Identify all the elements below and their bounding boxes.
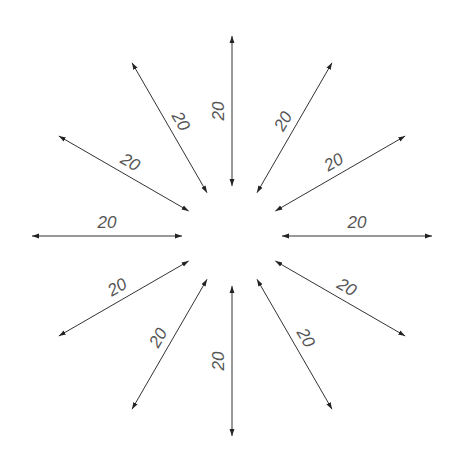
double-headed-arrow-line — [275, 136, 405, 211]
double-headed-arrow-line — [59, 136, 189, 211]
double-headed-arrow-line — [59, 261, 189, 336]
dimension-arrow: 20 — [132, 279, 207, 409]
dimension-arrow: 20 — [209, 286, 232, 436]
dimension-arrow: 20 — [209, 36, 232, 186]
double-headed-arrow-line — [257, 63, 332, 193]
double-headed-arrow-line — [275, 261, 405, 336]
dimension-arrow: 20 — [132, 63, 207, 193]
radial-dimension-diagram: 202020202020202020202020 — [0, 0, 450, 461]
dimension-label: 20 — [347, 213, 367, 232]
dimension-arrow: 20 — [59, 261, 189, 336]
dimension-arrow: 20 — [275, 136, 405, 211]
double-headed-arrow-line — [132, 279, 207, 409]
dimension-arrow: 20 — [32, 213, 182, 236]
dimension-label: 20 — [209, 351, 228, 371]
dimension-label: 20 — [97, 213, 117, 232]
arrow-group: 202020202020202020202020 — [32, 36, 432, 436]
dimension-arrow: 20 — [59, 136, 189, 211]
dimension-label: 20 — [209, 101, 228, 121]
dimension-arrow: 20 — [282, 213, 432, 236]
dimension-arrow: 20 — [257, 63, 332, 193]
dimension-arrow: 20 — [275, 261, 405, 336]
double-headed-arrow-line — [257, 279, 332, 409]
double-headed-arrow-line — [132, 63, 207, 193]
dimension-arrow: 20 — [257, 279, 332, 409]
diagram-canvas: 202020202020202020202020 — [0, 0, 450, 461]
